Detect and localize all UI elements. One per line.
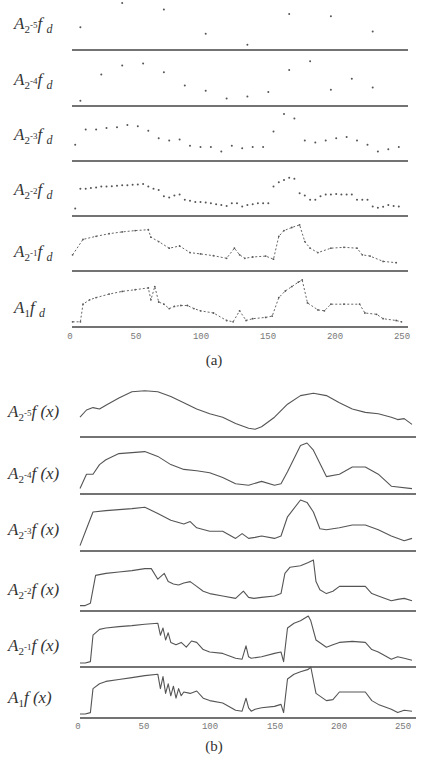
data-point — [205, 201, 207, 203]
data-point — [205, 33, 207, 35]
data-point — [246, 44, 248, 46]
data-point — [194, 201, 196, 203]
series-line — [80, 391, 412, 429]
data-point — [231, 145, 233, 147]
x-tick-a-1: 50 — [131, 332, 142, 342]
data-point — [246, 95, 248, 97]
series-dots — [73, 225, 397, 263]
data-point — [288, 69, 290, 71]
row-label-b-1: A2-4f (x) — [8, 464, 59, 484]
data-point — [205, 90, 207, 92]
data-point — [387, 148, 389, 150]
data-point — [189, 200, 191, 202]
data-point — [293, 117, 295, 119]
data-point — [163, 71, 165, 73]
data-point — [387, 204, 389, 206]
data-point — [95, 187, 97, 189]
x-tick-b-4: 200 — [331, 722, 347, 732]
data-point — [382, 206, 384, 208]
data-point — [273, 258, 275, 260]
x-tick-b-2: 100 — [202, 722, 218, 732]
x-tick-b-5: 250 — [395, 722, 411, 732]
data-point — [320, 195, 322, 197]
row-label-b-2: A2-3f (x) — [8, 520, 59, 540]
data-point — [351, 194, 353, 196]
data-point — [163, 9, 165, 11]
series-dots — [73, 280, 402, 322]
row-label-b-0: A2-5f (x) — [8, 402, 59, 422]
data-point — [252, 146, 254, 148]
x-tick-b-0: 0 — [75, 722, 80, 732]
data-point — [74, 208, 76, 210]
data-point — [189, 145, 191, 147]
data-point — [335, 137, 337, 139]
data-point — [246, 204, 248, 206]
data-point — [351, 78, 353, 80]
data-point — [126, 124, 128, 126]
data-point — [241, 147, 243, 149]
data-point — [314, 199, 316, 201]
data-point — [90, 187, 92, 189]
data-point — [273, 131, 275, 133]
data-point — [231, 202, 233, 204]
data-point — [367, 199, 369, 201]
data-point — [220, 204, 222, 206]
data-point — [367, 144, 369, 146]
data-point — [304, 139, 306, 141]
caption-a: (a) — [206, 352, 223, 369]
data-point — [314, 142, 316, 144]
series-line — [80, 667, 412, 714]
data-point — [372, 31, 374, 33]
data-point — [330, 247, 332, 249]
data-point — [137, 183, 139, 185]
x-tick-a-2: 100 — [193, 332, 209, 342]
data-point — [220, 150, 222, 152]
data-point — [106, 127, 108, 129]
data-point — [262, 202, 264, 204]
data-point — [398, 146, 400, 148]
row-label-a-5: A1f d — [14, 298, 45, 318]
data-point — [325, 194, 327, 196]
data-point — [252, 203, 254, 205]
data-point — [121, 184, 123, 186]
data-point — [111, 185, 113, 187]
data-point — [168, 197, 170, 199]
data-point — [283, 179, 285, 181]
data-point — [288, 13, 290, 15]
data-point — [330, 15, 332, 17]
data-point — [288, 177, 290, 179]
data-point — [330, 194, 332, 196]
data-point — [393, 205, 395, 207]
data-point — [309, 60, 311, 62]
data-point — [147, 130, 149, 132]
caption-b: (b) — [205, 738, 223, 755]
data-point — [184, 84, 186, 86]
data-point — [377, 207, 379, 209]
data-point — [252, 318, 254, 320]
data-point — [79, 188, 81, 190]
data-point — [121, 291, 123, 293]
data-point — [356, 139, 358, 141]
data-point — [210, 146, 212, 148]
data-point — [100, 186, 102, 188]
data-point — [340, 194, 342, 196]
row-label-a-3: A2-2f d — [14, 180, 52, 200]
figure-plots — [0, 0, 429, 759]
data-point — [278, 181, 280, 183]
data-point — [106, 186, 108, 188]
data-point — [116, 185, 118, 187]
data-point — [179, 139, 181, 141]
data-point — [283, 113, 285, 115]
row-label-b-5: A1f (x) — [8, 688, 52, 708]
data-point — [79, 100, 81, 102]
data-point — [163, 195, 165, 197]
data-point — [257, 202, 259, 204]
data-point — [121, 2, 123, 4]
data-point — [116, 126, 118, 128]
data-point — [335, 193, 337, 195]
data-point — [293, 178, 295, 180]
data-point — [100, 73, 102, 75]
data-point — [330, 89, 332, 91]
data-point — [398, 205, 400, 207]
data-point — [142, 62, 144, 64]
